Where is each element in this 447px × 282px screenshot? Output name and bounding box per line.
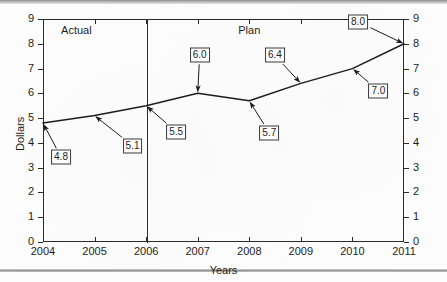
y-tick-label-right: 2 <box>413 186 435 197</box>
x-tick-bottom <box>352 237 353 242</box>
y-tick-label-left: 7 <box>12 63 34 74</box>
y-tick-label-left: 3 <box>12 162 34 173</box>
x-tick-label: 2010 <box>329 246 375 257</box>
y-tick-label-right: 7 <box>413 63 435 74</box>
y-tick-left <box>38 69 43 70</box>
region-label-actual: Actual <box>61 24 92 36</box>
x-tick-label: 2005 <box>72 246 118 257</box>
data-point-label: 5.5 <box>166 124 186 139</box>
data-point-label: 4.8 <box>51 150 71 165</box>
y-tick-right <box>404 118 409 119</box>
plot-area <box>43 19 404 242</box>
x-tick-bottom <box>301 237 302 242</box>
y-tick-label-right: 9 <box>413 13 435 24</box>
data-point-label: 5.7 <box>259 125 279 140</box>
y-tick-label-right: 1 <box>413 211 435 222</box>
region-label-plan: Plan <box>238 24 260 36</box>
data-point-label: 8.0 <box>348 14 368 29</box>
y-tick-label-right: 5 <box>413 112 435 123</box>
x-tick-bottom <box>198 237 199 242</box>
x-tick-label: 2007 <box>175 246 221 257</box>
x-tick-top <box>95 19 96 24</box>
x-tick-label: 2009 <box>278 246 324 257</box>
y-tick-right <box>404 93 409 94</box>
actual-plan-divider <box>147 20 148 243</box>
x-tick-bottom <box>95 237 96 242</box>
y-tick-right <box>404 44 409 45</box>
data-point-label: 7.0 <box>368 83 388 98</box>
x-tick-top <box>146 19 147 24</box>
x-tick-bottom <box>249 237 250 242</box>
y-tick-label-left: 6 <box>12 87 34 98</box>
x-axis-title: Years <box>164 264 284 276</box>
y-tick-label-right: 8 <box>413 38 435 49</box>
y-tick-left <box>38 143 43 144</box>
y-tick-label-right: 6 <box>413 87 435 98</box>
y-tick-right <box>404 217 409 218</box>
x-tick-label: 2006 <box>123 246 169 257</box>
data-point-label: 5.1 <box>123 138 143 153</box>
x-tick-label: 2008 <box>226 246 272 257</box>
x-tick-bottom <box>146 237 147 242</box>
y-tick-left <box>38 19 43 20</box>
y-tick-left <box>38 118 43 119</box>
y-tick-left <box>38 192 43 193</box>
y-tick-right <box>404 69 409 70</box>
y-tick-left <box>38 242 43 243</box>
y-tick-right <box>404 242 409 243</box>
y-tick-right <box>404 19 409 20</box>
chart-canvas: 9876543210987654321020042005200620072008… <box>0 0 447 282</box>
y-tick-right <box>404 168 409 169</box>
scan-edge-top <box>0 0 447 4</box>
y-axis-title: Dollars <box>14 116 26 150</box>
data-point-label: 6.0 <box>190 48 210 63</box>
y-tick-left <box>38 44 43 45</box>
x-tick-top <box>301 19 302 24</box>
y-tick-label-left: 2 <box>12 186 34 197</box>
x-tick-top <box>198 19 199 24</box>
y-tick-right <box>404 143 409 144</box>
y-tick-left <box>38 217 43 218</box>
x-tick-label: 2004 <box>20 246 66 257</box>
y-tick-label-right: 3 <box>413 162 435 173</box>
x-tick-label: 2011 <box>381 246 427 257</box>
y-tick-label-left: 9 <box>12 13 34 24</box>
y-tick-left <box>38 93 43 94</box>
y-tick-left <box>38 168 43 169</box>
y-tick-right <box>404 192 409 193</box>
data-point-label: 6.4 <box>265 48 285 63</box>
y-tick-label-right: 4 <box>413 137 435 148</box>
y-tick-label-left: 8 <box>12 38 34 49</box>
y-tick-label-left: 1 <box>12 211 34 222</box>
